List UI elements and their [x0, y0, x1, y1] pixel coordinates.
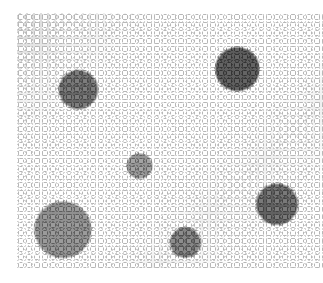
- flower-photo: [17, 13, 323, 268]
